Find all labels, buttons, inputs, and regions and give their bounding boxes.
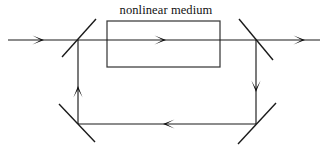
interferometer-figure: nonlinear medium [0, 0, 327, 150]
mirror-bottom-left [59, 104, 95, 142]
beam-splitter-top-left [62, 19, 96, 57]
figure-caption: nonlinear medium [120, 3, 213, 17]
interferometer-diagram: nonlinear medium [0, 0, 327, 150]
nonlinear-medium-box [107, 21, 220, 67]
